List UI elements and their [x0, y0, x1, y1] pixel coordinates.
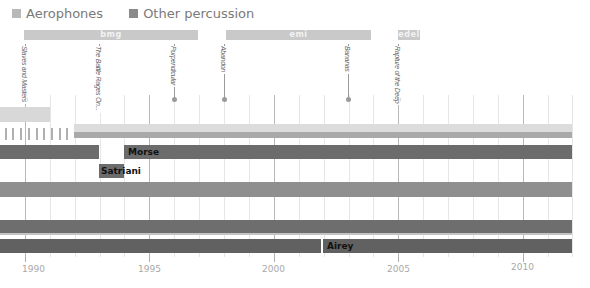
- tick-mark-icon: [5, 128, 7, 140]
- legend: Aerophones Other percussion: [12, 6, 254, 21]
- tick-mark-icon: [66, 128, 68, 140]
- axis-label-2000: 2000: [262, 264, 285, 274]
- album-title: The Battle Rages On...: [95, 46, 101, 113]
- tick-mark-icon: [28, 128, 30, 140]
- album-marker-slaves-and-masters[interactable]: Slaves and Masters: [22, 44, 30, 100]
- legend-label-other-percussion: Other percussion: [143, 6, 254, 21]
- tick-mark-icon: [20, 128, 22, 140]
- legend-label-aerophones: Aerophones: [26, 6, 103, 21]
- album-title: Purpendicular: [170, 46, 176, 87]
- album-title: Slaves and Masters: [21, 46, 27, 104]
- bar-band-mid[interactable]: [74, 132, 572, 138]
- bar-label-morse: Morse: [128, 145, 159, 159]
- tick-mark-icon: [51, 128, 53, 140]
- tick-mark-icon: [59, 128, 61, 140]
- bar-keyboard-pre-morse[interactable]: [0, 145, 99, 159]
- axis-tick: [274, 257, 275, 262]
- bar-band-light[interactable]: [74, 124, 572, 132]
- album-dot-icon: [346, 97, 351, 102]
- axis-tick: [398, 257, 399, 262]
- bar-satriani[interactable]: Satriani: [99, 164, 124, 178]
- bar-airey[interactable]: Airey: [323, 239, 572, 253]
- tick-mark-icon: [43, 128, 45, 140]
- bar-morse[interactable]: Morse: [124, 145, 572, 159]
- bar-pre-airey[interactable]: [0, 239, 321, 253]
- bar-label-satriani: Satriani: [101, 164, 141, 178]
- album-marker-abandon[interactable]: Abandon: [221, 44, 229, 100]
- record-label-emi[interactable]: emi: [226, 30, 371, 40]
- legend-item-other-percussion[interactable]: Other percussion: [129, 6, 254, 21]
- bar-label-airey: Airey: [327, 239, 353, 253]
- bar-row-6[interactable]: [0, 220, 572, 233]
- gridline: [572, 95, 573, 257]
- axis-tick: [149, 257, 150, 262]
- album-dot-icon: [172, 97, 177, 102]
- album-marker-purpendicular[interactable]: Purpendicular: [171, 44, 179, 100]
- album-marker-bananas[interactable]: Bananas: [345, 44, 353, 100]
- album-title: Rapture of the Deep: [394, 46, 400, 105]
- bar-row-6-underline: [0, 233, 572, 235]
- album-marker-rapture-of-the-deep[interactable]: Rapture of the Deep: [395, 44, 403, 100]
- aerophones-swatch-icon: [12, 9, 21, 18]
- tick-mark-icon: [36, 128, 38, 140]
- bar-aerophones[interactable]: [0, 107, 50, 122]
- axis-tick: [25, 257, 26, 262]
- bar-row-5[interactable]: [0, 182, 572, 197]
- axis-label-1995: 1995: [138, 264, 161, 274]
- record-label-bmg[interactable]: bmg: [24, 30, 198, 40]
- legend-item-aerophones[interactable]: Aerophones: [12, 6, 103, 21]
- album-marker-battle-rages-on[interactable]: The Battle Rages On...: [96, 44, 104, 100]
- axis-label-1990: 1990: [22, 264, 45, 274]
- record-label-edel[interactable]: edel: [398, 30, 420, 40]
- tick-mark-icon: [12, 128, 14, 140]
- album-dot-icon: [222, 97, 227, 102]
- album-title: Abandon: [220, 46, 226, 74]
- axis-label-2010: 2010: [511, 262, 534, 272]
- axis-label-2005: 2005: [387, 264, 410, 274]
- album-title: Bananas: [344, 46, 350, 74]
- other-percussion-swatch-icon: [129, 9, 138, 18]
